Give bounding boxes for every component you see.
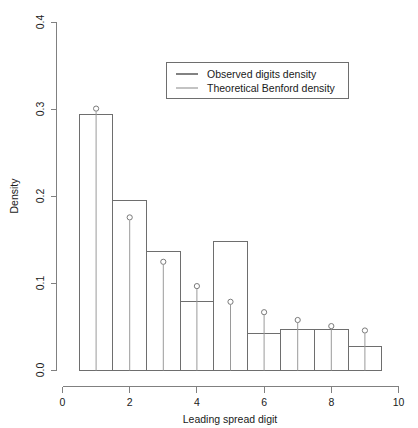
x-tick-label-6: 6 <box>261 396 267 408</box>
marker-digit-2 <box>127 215 132 220</box>
x-ticks-group <box>63 387 399 393</box>
marker-digit-4 <box>194 284 199 289</box>
x-tick-label-10: 10 <box>393 396 405 408</box>
legend: Observed digits density Theoretical Benf… <box>167 63 349 99</box>
x-tick-label-0: 0 <box>60 396 66 408</box>
y-axis-title: Density <box>8 178 20 214</box>
y-tick-label-1: 0.1 <box>34 276 46 291</box>
marker-digit-7 <box>295 317 300 322</box>
y-tick-label-2: 0.2 <box>34 189 46 204</box>
legend-label-observed: Observed digits density <box>207 68 317 80</box>
marker-digit-3 <box>161 259 166 264</box>
theoretical-stems-group <box>94 106 368 371</box>
marker-digit-6 <box>262 310 267 315</box>
benford-density-chart: 0.0 0.1 0.2 0.3 0.4 Density 0 2 4 6 8 10… <box>0 0 418 428</box>
marker-digit-9 <box>362 328 367 333</box>
x-axis-title: Leading spread digit <box>183 413 278 425</box>
marker-digit-1 <box>94 106 99 111</box>
chart-canvas: 0.0 0.1 0.2 0.3 0.4 Density 0 2 4 6 8 10… <box>0 0 418 428</box>
y-tick-label-3: 0.3 <box>34 102 46 117</box>
legend-label-theoretical: Theoretical Benford density <box>207 82 336 94</box>
x-tick-label-8: 8 <box>328 396 334 408</box>
x-tick-label-2: 2 <box>127 396 133 408</box>
x-tick-label-4: 4 <box>194 396 200 408</box>
y-tick-label-4: 0.4 <box>34 15 46 30</box>
y-tick-label-0: 0.0 <box>34 363 46 378</box>
marker-digit-8 <box>329 324 334 329</box>
marker-digit-5 <box>228 299 233 304</box>
